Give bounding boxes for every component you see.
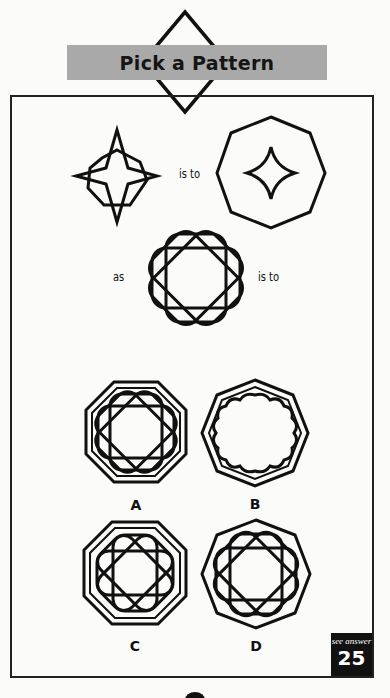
option-a-figure-icon [84, 380, 188, 484]
option-b[interactable]: B [200, 378, 310, 510]
scalloped-outline [213, 394, 296, 472]
option-a[interactable]: A [84, 380, 188, 510]
option-a-label: A [126, 497, 146, 513]
option-c-label: C [125, 638, 145, 654]
option-c-figure-icon [82, 520, 188, 626]
title-banner: Pick a Pattern [67, 45, 327, 80]
option-d-figure-icon [200, 518, 312, 630]
four-point-star-over-square-icon [70, 128, 160, 223]
answer-page-number: 25 [331, 646, 372, 670]
option-d-label: D [246, 638, 266, 654]
see-answer-badge[interactable]: see answer 25 [331, 633, 372, 676]
analogy-label-is-to-2: is to [258, 269, 279, 284]
option-c[interactable]: C [82, 520, 188, 654]
octagon-with-concave-diamond-icon [215, 115, 325, 225]
option-d[interactable]: D [200, 518, 312, 654]
see-answer-caption: see answer [331, 636, 372, 646]
page-title: Pick a Pattern [120, 52, 275, 74]
option-b-label: B [245, 496, 265, 512]
option-b-figure-icon [200, 378, 310, 488]
analogy-label-is-to-1: is to [179, 166, 200, 181]
bottom-tab-icon [180, 688, 210, 698]
analogy-label-as: as [113, 269, 124, 284]
eight-lobed-rosette-icon [150, 232, 242, 324]
